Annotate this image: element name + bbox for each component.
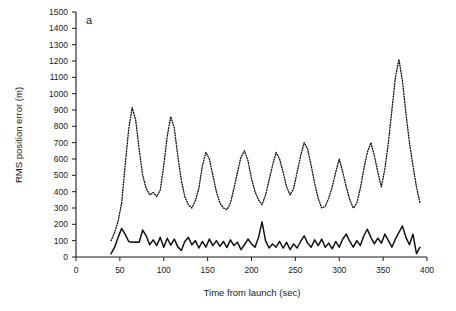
y-tick-label: 500 — [54, 170, 68, 180]
x-tick-label: 50 — [115, 265, 125, 275]
dotted-data-series — [111, 59, 420, 240]
y-axis-tick-marks — [72, 12, 76, 257]
y-tick-label: 700 — [54, 138, 68, 148]
panel-label: a — [86, 14, 93, 26]
y-axis-title: RMS position error (m) — [13, 87, 24, 183]
x-tick-label: 250 — [288, 265, 302, 275]
y-tick-label: 800 — [54, 121, 68, 131]
y-tick-label: 0 — [63, 252, 68, 262]
x-axis-tick-marks — [76, 257, 427, 261]
x-tick-label: 400 — [420, 265, 434, 275]
x-tick-label: 200 — [244, 265, 258, 275]
x-tick-label: 0 — [74, 265, 79, 275]
y-tick-label: 1500 — [49, 7, 68, 17]
x-axis-title: Time from launch (sec) — [204, 287, 301, 298]
y-tick-label: 1200 — [49, 56, 68, 66]
y-tick-label: 300 — [54, 203, 68, 213]
y-tick-label: 1100 — [50, 72, 69, 82]
y-axis-tick-labels: 0100200300400500600700800900100011001200… — [49, 7, 68, 262]
rms-position-error-chart: 0100200300400500600700800900100011001200… — [0, 0, 456, 311]
x-tick-label: 150 — [201, 265, 215, 275]
x-tick-label: 350 — [376, 265, 390, 275]
figure-panel-a: 0100200300400500600700800900100011001200… — [0, 0, 456, 311]
y-tick-label: 900 — [54, 105, 68, 115]
y-tick-label: 1300 — [49, 40, 68, 50]
x-axis-tick-labels: 050100150200250300350400 — [74, 265, 435, 275]
y-tick-label: 100 — [54, 236, 68, 246]
y-tick-label: 1000 — [49, 89, 68, 99]
x-tick-label: 100 — [157, 265, 171, 275]
y-tick-label: 1400 — [49, 23, 68, 33]
y-tick-label: 600 — [54, 154, 68, 164]
x-tick-label: 300 — [332, 265, 346, 275]
y-tick-label: 400 — [54, 187, 68, 197]
y-tick-label: 200 — [54, 219, 68, 229]
solid-data-series — [111, 222, 420, 254]
